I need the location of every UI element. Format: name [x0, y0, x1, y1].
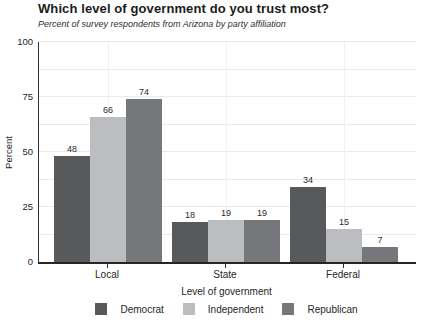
y-tick-label-100: 100	[9, 36, 33, 47]
bar-independent-federal: 15	[326, 229, 362, 262]
x-axis-tick	[225, 264, 226, 268]
bar-value-label: 66	[90, 105, 126, 115]
bar-democrat-federal: 34	[290, 187, 326, 262]
x-axis-tick	[343, 264, 344, 268]
legend-item-democrat: Democrat	[95, 303, 163, 315]
bar-value-label: 19	[244, 208, 280, 218]
x-category-label-federal: Federal	[303, 269, 383, 280]
y-tick-label-25: 25	[9, 201, 33, 212]
bar-value-label: 7	[362, 235, 398, 245]
legend-item-independent: Independent	[183, 303, 264, 315]
bar-value-label: 34	[290, 175, 326, 185]
bar-independent-local: 66	[90, 117, 126, 262]
horizontal-gridline	[39, 41, 416, 42]
x-axis-title: Level of government	[38, 286, 415, 297]
x-category-label-state: State	[185, 269, 265, 280]
bar-value-label: 19	[208, 208, 244, 218]
bar-value-label: 15	[326, 217, 362, 227]
y-tick-label-75: 75	[9, 91, 33, 102]
x-category-label-local: Local	[67, 269, 147, 280]
legend-swatch-icon	[95, 303, 107, 315]
bar-independent-state: 19	[208, 220, 244, 262]
plot-area: 48667418191934157	[38, 42, 416, 264]
legend-label: Republican	[307, 304, 357, 315]
legend-label: Democrat	[120, 304, 163, 315]
y-tick-label-50: 50	[9, 146, 33, 157]
y-tick-label-0: 0	[9, 256, 33, 267]
horizontal-gridline	[39, 96, 416, 97]
bar-republican-local: 74	[126, 99, 162, 262]
bar-democrat-local: 48	[54, 156, 90, 262]
bar-value-label: 74	[126, 87, 162, 97]
bar-democrat-state: 18	[172, 222, 208, 262]
legend: DemocratIndependentRepublican	[38, 303, 415, 315]
bar-value-label: 18	[172, 210, 208, 220]
bar-value-label: 48	[54, 144, 90, 154]
legend-item-republican: Republican	[282, 303, 357, 315]
horizontal-gridline	[39, 69, 416, 70]
x-axis-tick	[107, 264, 108, 268]
bar-republican-federal: 7	[362, 247, 398, 262]
legend-swatch-icon	[282, 303, 294, 315]
chart-title: Which level of government do you trust m…	[38, 1, 329, 16]
chart-subtitle: Percent of survey respondents from Arizo…	[38, 19, 286, 29]
legend-swatch-icon	[183, 303, 195, 315]
chart-figure: Which level of government do you trust m…	[0, 0, 421, 331]
bar-republican-state: 19	[244, 220, 280, 262]
legend-label: Independent	[208, 304, 264, 315]
